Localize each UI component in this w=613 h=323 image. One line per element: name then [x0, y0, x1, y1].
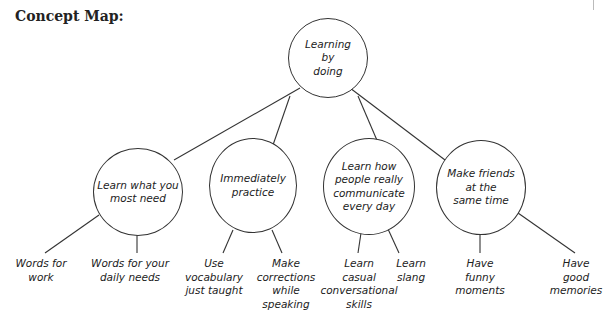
leaf-node: Words for work [15, 257, 66, 284]
branch-node: Learn what you most need [93, 148, 183, 236]
leaf-node: Have funny moments [455, 257, 505, 298]
leaf-node: Have good memories [550, 257, 603, 298]
leaf-node: Use vocabulary just taught [185, 257, 243, 298]
branch-node: Immediately practice [209, 138, 297, 233]
branch-label: Make friends at the same time [447, 167, 515, 208]
leaf-node: Learn casual conversational skills [320, 257, 397, 311]
branch-label: Learn what you most need [97, 179, 178, 206]
branch-label: Learn how people really communicate ever… [333, 160, 405, 214]
branch-label: Immediately practice [220, 172, 286, 199]
root-label: Learning by doing [305, 38, 351, 79]
leaf-node: Learn slang [396, 257, 426, 284]
leaf-node: Words for your daily needs [91, 257, 169, 284]
branch-node: Make friends at the same time [436, 140, 526, 235]
leaf-node: Make corrections while speaking [257, 257, 316, 311]
root-node: Learning by doing [288, 18, 368, 98]
branch-node: Learn how people really communicate ever… [323, 138, 415, 235]
